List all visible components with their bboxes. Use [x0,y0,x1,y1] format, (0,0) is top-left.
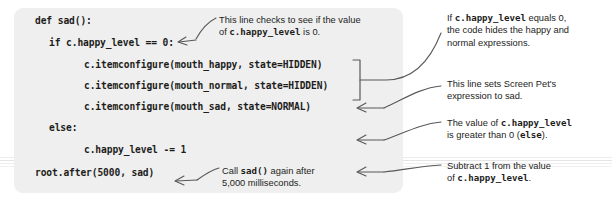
annotation-greater-than: The value of c.happy_level is greater th… [447,117,609,142]
annotation-call-code1: sad() [241,166,268,176]
annotation-call-sad: Call sad() again after 5,000 millisecond… [222,165,352,190]
annotation-equals-code1: c.happy_level [455,13,526,23]
annotation-greater-text1: The value of [447,118,501,128]
code-line-7: c.happy_level -= 1 [84,144,186,155]
code-line-6: else: [49,122,77,133]
annotation-sets-expression: This line sets Screen Pet's expression t… [447,78,607,103]
annotation-equals-zero: If c.happy_level equals 0, the code hide… [447,12,607,49]
annotation-sub-text2: . [529,173,532,183]
code-line-8: root.after(5000, sad) [35,167,154,178]
annotation-greater-text3: ). [542,130,548,140]
annotation-call-text1: Call [222,166,241,176]
annotation-sub-code1: c.happy_level [457,173,528,183]
annotation-subtract-one: Subtract 1 from the value of c.happy_lev… [447,160,607,185]
code-line-3: c.itemconfigure(mouth_happy, state=HIDDE… [84,59,322,70]
annotation-check-code1: c.happy_level [229,27,300,37]
code-line-2: if c.happy_level == 0: [49,37,174,48]
code-line-5: c.itemconfigure(mouth_sad, state=NORMAL) [84,101,311,112]
annotation-check-text2: is 0. [301,27,321,37]
annotation-check-line: This line checks to see if the value of … [219,14,384,39]
code-line-1: def sad(): [35,15,92,26]
annotation-greater-code1: c.happy_level [501,118,572,128]
code-line-4: c.itemconfigure(mouth_normal, state=HIDD… [84,80,328,91]
annotation-equals-text1: If [447,13,455,23]
annotation-greater-code2: else [520,130,542,140]
figure-root: def sad(): if c.happy_level == 0: c.item… [0,0,612,207]
annotation-greater-text2: is greater than 0 ( [447,130,520,140]
